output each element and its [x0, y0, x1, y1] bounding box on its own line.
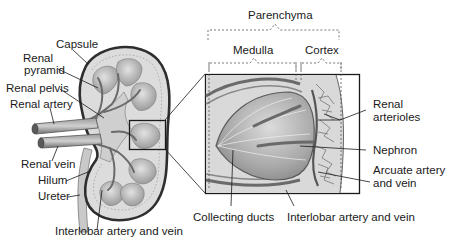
label-renal-arterioles-1: Renal [373, 98, 403, 111]
medulla-bracket [209, 58, 296, 70]
label-medulla: Medulla [233, 44, 273, 57]
renal-vein-shape [40, 134, 102, 148]
parenchyma-bracket [208, 24, 339, 40]
label-renal-arterioles-2: arterioles [373, 111, 420, 124]
label-ureter: Ureter [38, 190, 70, 203]
label-renal-pyramid-2: pyramid [24, 64, 65, 77]
parenchyma-detail [206, 62, 360, 194]
label-nephron: Nephron [373, 144, 417, 157]
kidney-diagram: Capsule Renal pyramid Renal pelvis Renal… [0, 0, 452, 242]
label-renal-vein: Renal vein [21, 158, 75, 171]
label-renal-artery: Renal artery [10, 98, 73, 111]
label-cortex: Cortex [305, 44, 339, 57]
label-interlobar-artery-vein: Interlobar artery and vein [55, 225, 183, 238]
label-arcuate-1: Arcuate artery [373, 164, 445, 177]
label-parenchyma: Parenchyma [248, 9, 313, 22]
label-arcuate-2: and vein [373, 177, 416, 190]
zoom-connectors [165, 74, 205, 193]
label-collecting-ducts: Collecting ducts [193, 211, 274, 224]
label-capsule: Capsule [56, 38, 98, 51]
label-renal-pelvis: Renal pelvis [6, 82, 69, 95]
label-hilum: Hilum [38, 174, 67, 187]
label-interlobar-detail: Interlobar artery and vein [287, 211, 415, 224]
cortex-bracket [301, 58, 341, 70]
